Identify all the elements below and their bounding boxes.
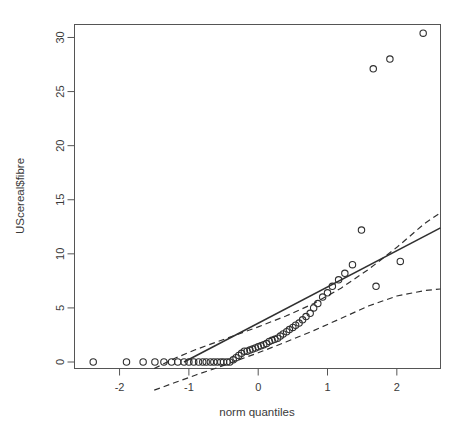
y-tick-label: 30 <box>55 31 67 43</box>
x-tick-label: 1 <box>324 381 330 393</box>
x-tick-label: -1 <box>184 381 194 393</box>
qq-plot-figure: -2-1012 051015202530 norm quantiles USce… <box>0 0 462 433</box>
y-tick-label: 20 <box>55 140 67 152</box>
y-tick-label: 5 <box>55 305 67 311</box>
y-tick-label: 15 <box>55 194 67 206</box>
qq-plot-canvas: -2-1012 051015202530 norm quantiles USce… <box>0 0 462 433</box>
x-tick-label: 0 <box>255 381 261 393</box>
x-tick-label: 2 <box>394 381 400 393</box>
y-tick-label: 0 <box>55 359 67 365</box>
y-axis-label: UScereal$fibre <box>14 158 26 234</box>
x-axis-label: norm quantiles <box>219 406 295 418</box>
y-tick-label: 10 <box>55 248 67 260</box>
x-tick-label: -2 <box>115 381 125 393</box>
y-tick-label: 25 <box>55 85 67 97</box>
